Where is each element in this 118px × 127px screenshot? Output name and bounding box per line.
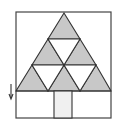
tree-diagram <box>0 0 118 127</box>
shaded-triangle-1 <box>48 13 80 39</box>
tree-trunk <box>54 91 72 118</box>
